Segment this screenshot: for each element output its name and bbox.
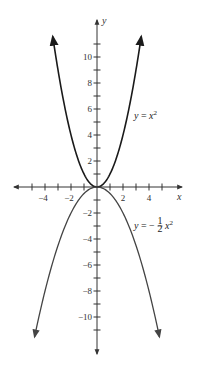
svg-text:y = −: y = − [133, 220, 155, 231]
y-tick-label: 8 [88, 78, 93, 88]
y-tick-label: −6 [82, 260, 92, 270]
x-tick-label: 2 [121, 193, 126, 203]
y-tick-label: −2 [82, 208, 92, 218]
y-tick-label: 10 [83, 52, 93, 62]
y-axis-label: y [101, 15, 107, 26]
equation-label-upper: y = x2 [133, 109, 158, 121]
axes: −4−224 108642−2−4−6−8−10 x y [14, 15, 182, 354]
svg-text:2: 2 [158, 223, 163, 234]
x-axis-label: x [176, 191, 182, 202]
y-tick-label: −8 [82, 286, 92, 296]
x-tick-label: −4 [38, 193, 48, 203]
y-tick-label: −4 [82, 234, 92, 244]
y-tick-label: 6 [88, 104, 93, 114]
x-tick-label: 4 [147, 193, 152, 203]
parabola-chart: −4−224 108642−2−4−6−8−10 x y y = x2 y = … [0, 0, 197, 373]
y-tick-label: 4 [88, 130, 93, 140]
y-tick-label: −10 [78, 312, 93, 322]
svg-text:x2: x2 [164, 219, 173, 231]
y-tick-label: 2 [88, 156, 93, 166]
equation-label-lower: y = − 1 2 x2 [133, 215, 173, 234]
x-tick-label: −2 [64, 193, 74, 203]
